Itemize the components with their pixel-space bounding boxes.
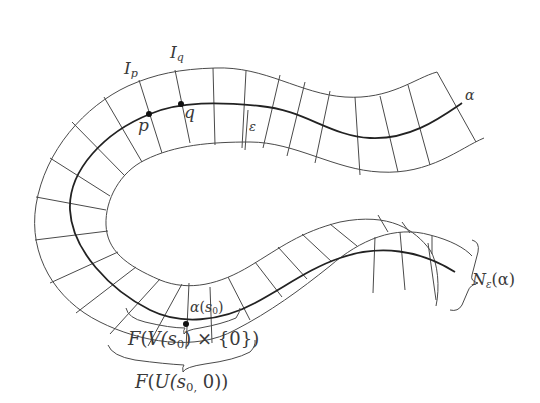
label-neighborhood: Nε(α)	[472, 272, 515, 289]
label-curve-alpha: α	[465, 88, 474, 102]
fiber-lines	[35, 68, 476, 349]
tubular-neighborhood-diagram	[0, 0, 540, 403]
inner-boundary	[106, 138, 484, 306]
label-point-q: q	[184, 104, 195, 121]
label-point-p: p	[138, 117, 149, 134]
label-fiber-q: Iq	[170, 44, 184, 63]
label-F-V: F(V(s0) × {0})	[128, 330, 259, 351]
epsilon-marker	[245, 110, 248, 150]
point-alpha-s0	[183, 321, 189, 327]
outer-boundary	[35, 68, 472, 343]
label-alpha-s0: α(s0)	[190, 300, 223, 316]
label-F-U: F(U(s0, 0))	[135, 373, 228, 394]
label-epsilon: ε	[249, 120, 256, 133]
label-fiber-p: Ip	[124, 60, 138, 79]
